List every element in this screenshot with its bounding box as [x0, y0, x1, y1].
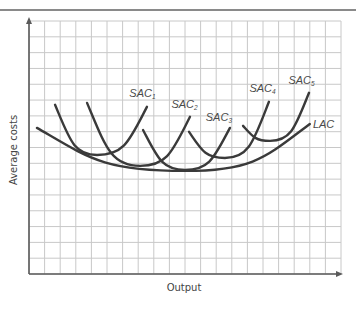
chart: SAC1SAC2SAC3SAC4SAC5LAC Average costs Ou…	[0, 0, 356, 312]
y-axis-label: Average costs	[8, 115, 19, 185]
x-axis-label: Output	[167, 282, 202, 293]
label-sac4: SAC4	[249, 82, 276, 95]
label-sac2: SAC2	[171, 98, 198, 111]
label-sac3: SAC3	[206, 111, 233, 124]
label-sac5: SAC5	[288, 74, 315, 87]
label-lac: LAC	[313, 118, 334, 130]
x-axis-arrow-icon	[336, 271, 343, 277]
label-sac1: SAC1	[129, 87, 156, 100]
